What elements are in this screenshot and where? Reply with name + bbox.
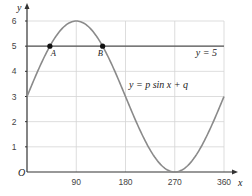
y-tick-label: 4 bbox=[12, 66, 17, 76]
point-label: B bbox=[98, 48, 103, 58]
line-label: y = 5 bbox=[195, 47, 217, 58]
x-axis-arrow-icon bbox=[232, 170, 238, 175]
y-tick-label: 3 bbox=[12, 92, 17, 102]
y-tick-label: 7 bbox=[12, 0, 17, 1]
y-tick-label: 1 bbox=[12, 142, 17, 152]
tick-labels: 901802703601234567 bbox=[12, 0, 232, 187]
point-label: A bbox=[50, 48, 57, 58]
x-tick-label: 90 bbox=[72, 177, 82, 187]
curve-label: y = p sin x + q bbox=[128, 79, 188, 90]
x-tick-label: 180 bbox=[118, 177, 132, 187]
x-tick-label: 270 bbox=[168, 177, 182, 187]
y-tick-label: 6 bbox=[12, 16, 17, 26]
x-axis-label: x bbox=[237, 177, 243, 188]
y-axis-label: y bbox=[16, 2, 22, 13]
sine-graph: 901802703601234567 AB y x O y = 5 y = p … bbox=[0, 0, 252, 196]
y-tick-label: 2 bbox=[12, 117, 17, 127]
y-tick-label: 5 bbox=[12, 41, 17, 51]
y-axis-arrow-icon bbox=[25, 3, 30, 9]
x-tick-label: 360 bbox=[217, 177, 231, 187]
origin-label: O bbox=[18, 167, 25, 178]
